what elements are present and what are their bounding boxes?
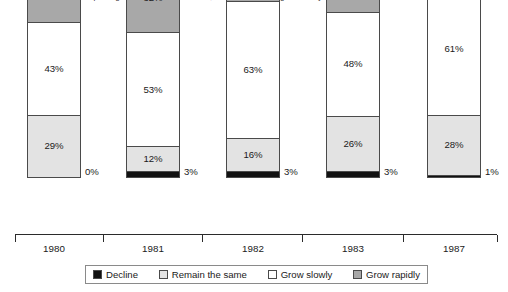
- legend-swatch-slowly-icon: [268, 270, 277, 279]
- segment-decline-1987[interactable]: [427, 175, 481, 178]
- decline-value-label-1980: 0%: [85, 167, 99, 177]
- segment-slowly-1980[interactable]: 43%: [27, 22, 81, 116]
- x-axis-label-1980: 1980: [24, 243, 84, 255]
- x-axis-label-1987: 1987: [424, 243, 484, 255]
- segment-value-label: 53%: [143, 85, 162, 95]
- decline-value-label-1981: 3%: [184, 167, 198, 177]
- segment-remain-1980[interactable]: 29%: [27, 115, 81, 178]
- decline-value-label-1987: 1%: [485, 167, 499, 177]
- segment-rapidly-1980[interactable]: 28%: [27, 0, 81, 23]
- segment-value-label: 12%: [143, 154, 162, 164]
- segment-rapidly-1981[interactable]: 32%: [126, 0, 180, 33]
- legend-swatch-decline-icon: [93, 270, 102, 279]
- legend-item-remain[interactable]: Remain the same: [159, 270, 247, 280]
- x-axis-label-1983: 1983: [323, 243, 383, 255]
- chart-legend: DeclineRemain the sameGrow slowlyGrow ra…: [85, 265, 428, 284]
- legend-item-rapidly[interactable]: Grow rapidly: [353, 270, 420, 280]
- segment-value-label: 61%: [444, 44, 463, 54]
- decline-value-label-1983: 3%: [384, 167, 398, 177]
- legend-label: Grow rapidly: [366, 270, 420, 280]
- bar-1982[interactable]: 18%63%16%: [226, 0, 280, 178]
- x-axis-tick-1: [103, 235, 104, 242]
- segment-remain-1981[interactable]: 12%: [126, 146, 180, 172]
- bar-1981[interactable]: 32%53%12%: [126, 0, 180, 178]
- segment-decline-1982[interactable]: [226, 171, 280, 178]
- bar-1987[interactable]: 10%61%28%: [427, 0, 481, 178]
- segment-value-label: 29%: [44, 141, 63, 151]
- x-axis-label-1982: 1982: [223, 243, 283, 255]
- x-axis-tick-5: [497, 235, 498, 242]
- segment-value-label: 43%: [44, 64, 63, 74]
- segment-slowly-1983[interactable]: 48%: [326, 12, 380, 117]
- x-axis-tick-2: [202, 235, 203, 242]
- legend-label: Decline: [106, 270, 138, 280]
- segment-remain-1982[interactable]: 16%: [226, 138, 280, 173]
- segment-value-label: 26%: [343, 139, 362, 149]
- segment-decline-1981[interactable]: [126, 171, 180, 178]
- legend-item-decline[interactable]: Decline: [93, 270, 138, 280]
- segment-value-label: 63%: [243, 65, 262, 75]
- bar-1980[interactable]: 28%43%29%: [27, 0, 81, 178]
- segment-remain-1987[interactable]: 28%: [427, 115, 481, 176]
- segment-slowly-1981[interactable]: 53%: [126, 32, 180, 148]
- x-axis-line: [15, 234, 497, 235]
- segment-slowly-1987[interactable]: 61%: [427, 0, 481, 116]
- segment-slowly-1982[interactable]: 63%: [226, 1, 280, 138]
- stacked-bar-chart: Percentage of issues expecting their bus…: [0, 0, 508, 292]
- bar-1983[interactable]: 23%48%26%: [326, 0, 380, 178]
- x-axis-tick-0: [15, 235, 16, 242]
- segment-value-label: 32%: [143, 0, 162, 3]
- x-axis-tick-3: [302, 235, 303, 242]
- x-axis-tick-4: [403, 235, 404, 242]
- segment-remain-1983[interactable]: 26%: [326, 116, 380, 173]
- decline-value-label-1982: 3%: [284, 167, 298, 177]
- segment-decline-1983[interactable]: [326, 171, 380, 178]
- segment-value-label: 28%: [444, 140, 463, 150]
- segment-value-label: 48%: [343, 59, 362, 69]
- plot-area: 28%43%29%32%53%12%18%63%16%23%48%26%10%6…: [0, 0, 508, 236]
- legend-label: Grow slowly: [281, 270, 333, 280]
- legend-item-slowly[interactable]: Grow slowly: [268, 270, 333, 280]
- x-axis-label-1981: 1981: [123, 243, 183, 255]
- segment-value-label: 16%: [243, 150, 262, 160]
- legend-swatch-remain-icon: [159, 270, 168, 279]
- legend-label: Remain the same: [172, 270, 247, 280]
- legend-swatch-rapidly-icon: [353, 270, 362, 279]
